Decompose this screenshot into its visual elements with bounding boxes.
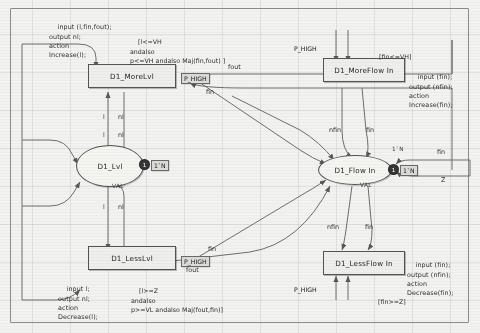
- marking-d1-lvl: 1`N: [151, 160, 169, 171]
- colorset-d1-lvl: VAL: [112, 183, 124, 189]
- arc-label-nl-up2: nl: [118, 131, 124, 139]
- arc-label-text: l: [103, 113, 105, 121]
- arc-label-fin-lesslvl: fin: [208, 245, 216, 253]
- arc-label-l-up: l: [103, 113, 105, 121]
- code-text: input (fin); output (nfin); action Decre…: [407, 261, 454, 297]
- code-block-morelvl: input (l,fin,fout); output nl; action In…: [49, 14, 112, 70]
- code-text: input (fin); output (nfin); action Incre…: [409, 73, 453, 109]
- colorset-d1-flow-in: VAL: [360, 182, 372, 188]
- port-tag-morelvl[interactable]: P_HIGH: [181, 73, 210, 84]
- diagram-canvas: D1_MoreLvl D1_LessLvl D1_MoreFlow In D1_…: [0, 0, 480, 333]
- arc-label-text: nl: [118, 113, 124, 121]
- token-count-d1-lvl: 1: [140, 160, 149, 169]
- arc-label-text: nfin: [327, 223, 339, 231]
- arc-label-text: fout: [186, 266, 199, 274]
- place-d1-flow-in[interactable]: D1_Flow In: [318, 155, 392, 185]
- arc-label-text: fin: [206, 88, 214, 96]
- code-text: input (l,fin,fout); output nl; action In…: [49, 23, 112, 59]
- marking-top-d1-flow-in: 1`N: [392, 146, 404, 152]
- place-d1-lvl[interactable]: D1_Lvl: [76, 145, 144, 187]
- marking-text: 1`N: [154, 162, 166, 170]
- arc-label-nl-up: nl: [118, 113, 124, 121]
- guard-text: [fin>=Z]: [378, 298, 406, 305]
- arc-label-nfin-down: nfin: [327, 223, 339, 231]
- arc-label-l-up2: l: [103, 131, 105, 139]
- guard-text: [l<=VH andalso p<=VH andalso Maj(fin,fou…: [130, 38, 225, 64]
- arc-label-fin-down: fin: [365, 223, 373, 231]
- arc-label-fout-top: fout: [228, 63, 241, 71]
- arc-label-text: l: [103, 203, 105, 211]
- transition-label: D1_LessLvl: [111, 254, 153, 263]
- code-block-lesslvl: input l; output nl; action Decrease(l);: [58, 276, 98, 332]
- arc-label-l-down: l: [103, 203, 105, 211]
- guard-text: [fin<=VH]: [379, 53, 411, 60]
- transition-d1-lessflow-in[interactable]: D1_LessFlow In: [323, 251, 405, 275]
- port-label: P_HIGH: [184, 258, 207, 266]
- arc-label-text: nl: [118, 131, 124, 139]
- guard-morelvl: [l<=VH andalso p<=VH andalso Maj(fin,fou…: [130, 28, 225, 75]
- guard-moreflow: [fin<=VH]: [371, 43, 411, 71]
- arc-label-text: fin: [437, 148, 445, 156]
- place-label: D1_Lvl: [97, 162, 122, 171]
- arc-label-text: Z: [441, 176, 445, 184]
- port-label: P_HIGH: [184, 75, 207, 83]
- guard-lesslvl: [l>=Z andalso p>=VL andalso Maj(fout,fin…: [131, 277, 223, 324]
- marking-top-text: 1`N: [392, 146, 404, 152]
- port-label: P_HIGH: [294, 286, 317, 294]
- marking-d1-flow-in: 1`N: [400, 165, 418, 176]
- colorset-text: VAL: [360, 182, 372, 188]
- arc-label-nfin-up: nfin: [329, 126, 341, 134]
- transition-label: D1_LessFlow In: [335, 259, 393, 268]
- place-label: D1_Flow In: [334, 166, 375, 175]
- token-count-value: 1: [392, 167, 396, 173]
- transition-d1-lesslvl[interactable]: D1_LessLvl: [88, 246, 176, 270]
- port-tag-lessflow[interactable]: P_HIGH: [292, 285, 319, 294]
- arc-label-nl-down: nl: [118, 203, 124, 211]
- arc-label-fin-up: fin: [366, 126, 374, 134]
- arc-label-text: fin: [208, 245, 216, 253]
- token-count-value: 1: [143, 162, 147, 168]
- code-text: input l; output nl; action Decrease(l);: [58, 285, 98, 321]
- colorset-text: VAL: [112, 183, 124, 189]
- token-count-d1-flow-in: 1: [389, 165, 398, 174]
- port-label: P_HIGH: [294, 45, 317, 53]
- guard-text: [l>=Z andalso p>=VL andalso Maj(fout,fin…: [131, 287, 223, 313]
- arc-label-fin-top: fin: [206, 88, 214, 96]
- code-block-lessflow: input (fin); output (nfin); action Decre…: [407, 252, 454, 308]
- arc-label-text: fout: [228, 63, 241, 71]
- arc-label-z-right: Z: [441, 176, 445, 184]
- arc-label-text: fin: [365, 223, 373, 231]
- arc-label-text: nfin: [329, 126, 341, 134]
- arc-label-fout-lesslvl: fout: [186, 266, 199, 274]
- port-tag-moreflow[interactable]: P_HIGH: [292, 44, 319, 53]
- arc-label-text: fin: [366, 126, 374, 134]
- guard-lessflow: [fin>=Z]: [370, 288, 406, 316]
- arc-label-text: nl: [118, 203, 124, 211]
- marking-text: 1`N: [403, 167, 415, 175]
- code-block-moreflow: input (fin); output (nfin); action Incre…: [409, 64, 453, 120]
- arc-label-text: l: [103, 131, 105, 139]
- arc-label-fin-right: fin: [437, 148, 445, 156]
